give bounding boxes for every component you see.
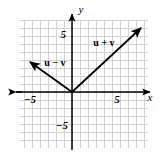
coordinate-plane: x y −5 5 5 −5 u + v u − v bbox=[0, 0, 162, 156]
y-tick-label-pos5: 5 bbox=[61, 28, 67, 40]
y-tick-label-neg5: −5 bbox=[56, 119, 69, 131]
x-axis-label: x bbox=[147, 91, 153, 103]
x-tick-label-pos5: 5 bbox=[114, 93, 120, 105]
vector-diagram-figure: x y −5 5 5 −5 u + v u − v bbox=[0, 0, 162, 156]
y-axis-label: y bbox=[78, 3, 84, 15]
vector-label-u-plus-v: u + v bbox=[93, 37, 114, 48]
x-tick-label-neg5: −5 bbox=[24, 93, 37, 105]
vector-label-u-minus-v: u − v bbox=[44, 57, 65, 68]
